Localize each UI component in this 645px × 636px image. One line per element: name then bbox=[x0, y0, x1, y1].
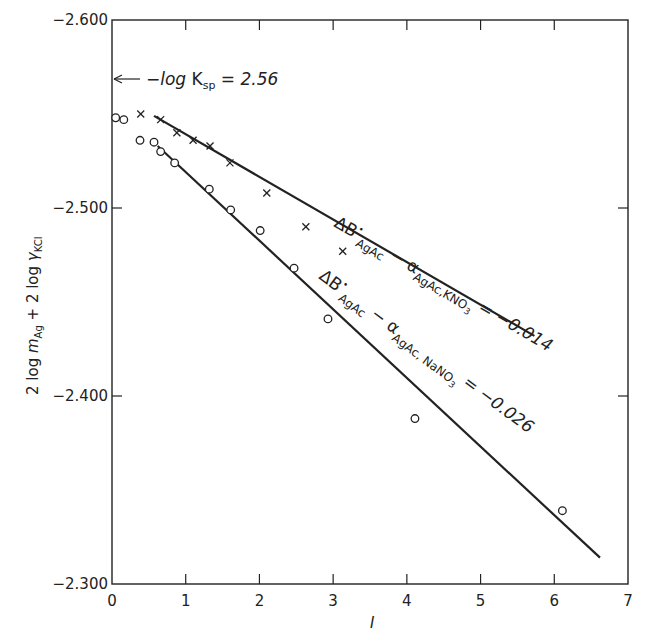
chart: 01234567 −2.600−2.500−2.400−2.300 2 log … bbox=[0, 0, 645, 636]
circle-marker-icon bbox=[136, 137, 144, 145]
fit-line-nano3 bbox=[158, 146, 600, 558]
y-tick-label: −2.600 bbox=[52, 11, 108, 29]
circle-marker-icon bbox=[171, 159, 179, 167]
x-tick-label: 6 bbox=[550, 592, 560, 610]
circle-marker-icon bbox=[150, 138, 158, 146]
circle-marker-icon bbox=[290, 264, 298, 272]
y-axis-label: 2 log mAg + 2 log γKCl bbox=[24, 236, 44, 395]
circle-marker-icon bbox=[112, 114, 120, 122]
y-tick-label: −2.400 bbox=[52, 387, 108, 405]
circle-marker-icon bbox=[120, 116, 128, 124]
x-tick-label: 4 bbox=[402, 592, 412, 610]
ksp-annotation: −log Ksp = 2.56 bbox=[114, 69, 279, 92]
circle-marker-icon bbox=[206, 185, 214, 193]
circle-marker-icon bbox=[157, 148, 165, 156]
svg-text:−log Ksp = 2.56: −log Ksp = 2.56 bbox=[146, 69, 279, 92]
plot-frame bbox=[112, 20, 628, 584]
cross-marker-icon bbox=[263, 189, 270, 196]
x-tick-label: 5 bbox=[476, 592, 486, 610]
cross-marker-icon bbox=[339, 248, 346, 255]
cross-marker-icon bbox=[302, 223, 309, 230]
cross-marker-icon bbox=[157, 116, 164, 123]
plot-border bbox=[112, 20, 628, 584]
circle-marker-icon bbox=[411, 415, 419, 423]
y-tick-label: −2.500 bbox=[52, 199, 108, 217]
nano3-annotation: ΔB•AgAc − αAgAc, NaNO3 = −0.026 bbox=[311, 265, 538, 443]
kno3-annotation: ΔB•AgAc − αAgAc,KNO3 = −0.014 bbox=[327, 212, 556, 361]
x-axis-label: I bbox=[370, 614, 375, 632]
y-tick-label: −2.300 bbox=[52, 575, 108, 593]
x-tick-label: 0 bbox=[107, 592, 117, 610]
circle-marker-icon bbox=[227, 206, 235, 214]
x-tick-label: 1 bbox=[181, 592, 191, 610]
circle-marker-icon bbox=[559, 507, 567, 515]
x-tick-label: 3 bbox=[328, 592, 338, 610]
x-tick-label: 7 bbox=[623, 592, 633, 610]
x-tick-label: 2 bbox=[255, 592, 265, 610]
circle-marker-icon bbox=[324, 315, 332, 323]
circle-marker-icon bbox=[256, 227, 264, 235]
cross-marker-icon bbox=[137, 111, 144, 118]
